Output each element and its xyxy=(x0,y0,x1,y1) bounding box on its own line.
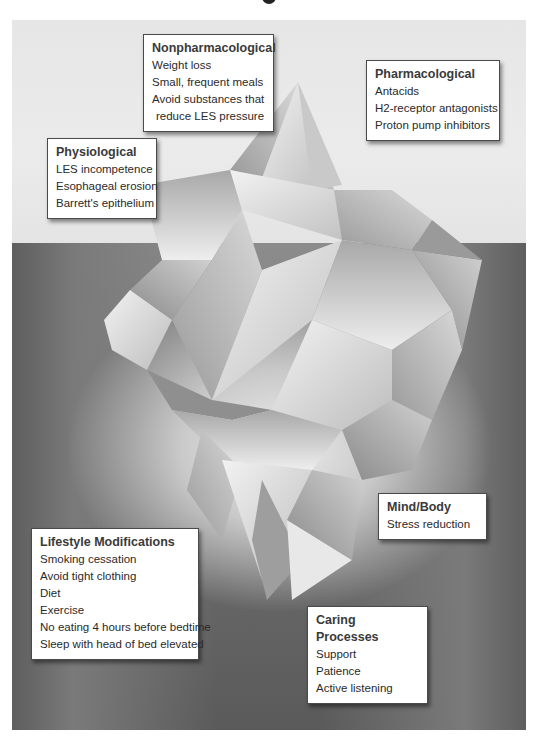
box-item: Barrett's epithelium xyxy=(56,195,148,212)
box-item: Patience xyxy=(316,663,419,680)
box-item: Proton pump inhibitors xyxy=(375,117,491,134)
box-item: LES incompetence xyxy=(56,161,148,178)
box-item: Support xyxy=(316,646,419,663)
box-heading: Lifestyle Modifications xyxy=(40,534,190,551)
box-item: Antacids xyxy=(375,83,491,100)
box-mind-body: Mind/Body Stress reduction xyxy=(378,493,487,540)
box-item: Exercise xyxy=(40,602,190,619)
box-item: Avoid substances that xyxy=(152,91,265,108)
box-item: reduce LES pressure xyxy=(152,108,265,125)
box-item: Active listening xyxy=(316,680,419,697)
box-heading: Mind/Body xyxy=(387,499,478,516)
box-heading: Caring Processes xyxy=(316,612,419,646)
box-heading: Nonpharmacological xyxy=(152,40,265,57)
box-item: Sleep with head of bed elevated xyxy=(40,636,190,653)
box-lifestyle-modifications: Lifestyle Modifications Smoking cessatio… xyxy=(31,528,199,660)
box-physiological: Physiological LES incompetence Esophagea… xyxy=(47,138,157,219)
title-fragment xyxy=(262,0,276,4)
box-nonpharmacological: Nonpharmacological Weight loss Small, fr… xyxy=(143,34,274,132)
box-pharmacological: Pharmacological Antacids H2-receptor ant… xyxy=(366,60,500,141)
box-item: Stress reduction xyxy=(387,516,478,533)
box-heading: Physiological xyxy=(56,144,148,161)
box-caring-processes: Caring Processes Support Patience Active… xyxy=(307,606,428,704)
box-item: Diet xyxy=(40,585,190,602)
box-item: Small, frequent meals xyxy=(152,74,265,91)
box-item: Weight loss xyxy=(152,57,265,74)
box-item: No eating 4 hours before bedtime xyxy=(40,619,190,636)
box-item: Smoking cessation xyxy=(40,551,190,568)
box-heading: Pharmacological xyxy=(375,66,491,83)
box-item: Avoid tight clothing xyxy=(40,568,190,585)
box-item: Esophageal erosion xyxy=(56,178,148,195)
box-item: H2-receptor antagonists xyxy=(375,100,491,117)
